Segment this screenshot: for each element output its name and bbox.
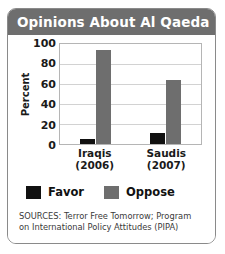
sources-line-2: on International Policy Attitudes (PIPA): [19, 222, 205, 233]
y-tick-0: 0: [24, 139, 56, 152]
y-tick-60: 60: [24, 77, 56, 90]
x-label-saudis-year: (2007): [131, 160, 203, 172]
card-body: Percent 100 80 60 40 20 0: [8, 35, 215, 243]
y-axis-ticks: 100 80 60 40 20 0: [24, 43, 56, 145]
sources-note: SOURCES: Terror Free Tomorrow; Program o…: [19, 211, 205, 232]
bars-container: [60, 44, 201, 144]
plot-area: [59, 43, 202, 145]
x-label-iraqis-name: Iraqis: [59, 148, 131, 160]
x-label-saudis: Saudis (2007): [131, 148, 203, 171]
sources-line-1: SOURCES: Terror Free Tomorrow; Program: [19, 211, 205, 222]
chart-legend: Favor Oppose: [26, 185, 206, 199]
x-label-iraqis: Iraqis (2006): [59, 148, 131, 171]
legend-swatch-favor: [26, 186, 41, 199]
legend-label-oppose: Oppose: [126, 185, 175, 199]
x-label-saudis-name: Saudis: [131, 148, 203, 160]
card-header: Opinions About Al Qaeda: [8, 9, 215, 35]
bar-iraqis-oppose: [96, 50, 111, 144]
y-tick-80: 80: [24, 57, 56, 70]
page-title: Opinions About Al Qaeda: [17, 14, 209, 30]
legend-item-favor: Favor: [26, 185, 84, 199]
legend-swatch-oppose: [104, 186, 119, 199]
bar-saudis-favor: [150, 133, 165, 144]
legend-label-favor: Favor: [48, 185, 84, 199]
y-tick-40: 40: [24, 98, 56, 111]
bar-saudis-oppose: [166, 80, 181, 144]
y-tick-100: 100: [24, 37, 56, 50]
chart-card: Opinions About Al Qaeda Percent 100 80 6…: [7, 8, 216, 244]
x-label-iraqis-year: (2006): [59, 160, 131, 172]
bar-iraqis-favor: [80, 139, 95, 144]
legend-item-oppose: Oppose: [104, 185, 175, 199]
y-tick-20: 20: [24, 118, 56, 131]
bar-chart: Percent 100 80 60 40 20 0: [8, 43, 214, 183]
x-axis-labels: Iraqis (2006) Saudis (2007): [59, 148, 202, 180]
